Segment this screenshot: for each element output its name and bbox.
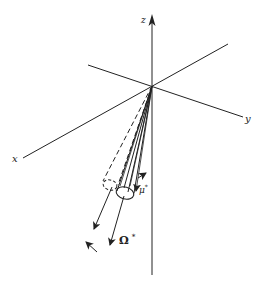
omega-star-label: Ω* [119, 232, 136, 247]
z-axis [149, 14, 156, 275]
rotation-cone-diagram: z y x μ* Ω* [0, 0, 264, 283]
axis-arrow-left [94, 187, 112, 229]
precession-arrow [86, 242, 97, 252]
x-axis [23, 44, 228, 158]
x-axis-label: x [12, 153, 18, 164]
mu-star-label: μ* [139, 183, 148, 195]
y-axis-label: y [244, 113, 251, 124]
z-axis-label: z [140, 15, 146, 25]
mu-star-arrow [138, 173, 146, 178]
